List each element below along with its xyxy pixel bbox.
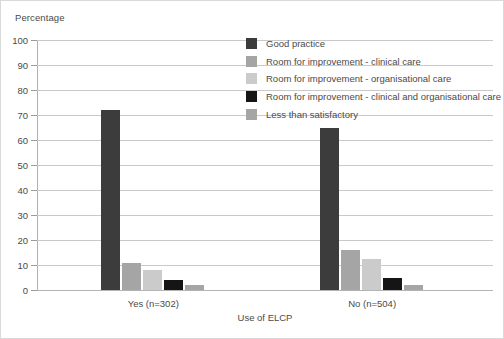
bar-slot bbox=[143, 40, 162, 290]
chart-legend: Good practiceRoom for improvement - clin… bbox=[246, 35, 501, 123]
tick-mark bbox=[31, 140, 37, 141]
tick-mark bbox=[31, 115, 37, 116]
bar[interactable] bbox=[383, 278, 402, 291]
bar-slot bbox=[164, 40, 183, 290]
bar[interactable] bbox=[404, 285, 423, 290]
legend-item[interactable]: Room for improvement - organisational ca… bbox=[246, 70, 501, 88]
legend-swatch bbox=[246, 109, 257, 120]
bar[interactable] bbox=[341, 250, 360, 290]
y-axis-tick-label: 80 bbox=[17, 85, 28, 96]
legend-swatch bbox=[246, 38, 257, 49]
legend-item[interactable]: Less than satisfactory bbox=[246, 105, 501, 123]
y-axis-tick-label: 50 bbox=[17, 160, 28, 171]
y-axis-tick-label: 10 bbox=[17, 260, 28, 271]
bar-group: Yes (n=302) bbox=[101, 40, 205, 290]
bar-slot bbox=[101, 40, 120, 290]
legend-item[interactable]: Room for improvement - clinical and orga… bbox=[246, 88, 501, 106]
legend-item[interactable]: Room for improvement - clinical care bbox=[246, 53, 501, 71]
bar[interactable] bbox=[320, 128, 339, 291]
legend-swatch bbox=[246, 91, 257, 102]
tick-mark bbox=[31, 215, 37, 216]
x-axis-group-label: No (n=504) bbox=[320, 298, 424, 309]
y-axis-tick-label: 40 bbox=[17, 185, 28, 196]
tick-mark bbox=[31, 240, 37, 241]
tick-mark bbox=[31, 265, 37, 266]
bar-slot bbox=[122, 40, 141, 290]
y-axis-tick-label: 100 bbox=[12, 35, 28, 46]
y-axis-tick-label: 0 bbox=[23, 285, 28, 296]
y-axis-tick-label: 70 bbox=[17, 110, 28, 121]
chart-figure: Percentage Yes (n=302)No (n=504) 1009080… bbox=[0, 0, 504, 339]
tick-mark bbox=[31, 90, 37, 91]
legend-item[interactable]: Good practice bbox=[246, 35, 501, 53]
bar[interactable] bbox=[122, 263, 141, 291]
bar[interactable] bbox=[362, 259, 381, 290]
bar[interactable] bbox=[101, 110, 120, 290]
tick-mark bbox=[31, 65, 37, 66]
legend-label: Room for improvement - clinical and orga… bbox=[266, 91, 501, 102]
y-axis-tick-label: 30 bbox=[17, 210, 28, 221]
tick-mark bbox=[31, 165, 37, 166]
y-axis-tick-label: 60 bbox=[17, 135, 28, 146]
x-axis-group-label: Yes (n=302) bbox=[101, 298, 205, 309]
legend-label: Good practice bbox=[266, 38, 325, 49]
tick-mark bbox=[31, 190, 37, 191]
legend-swatch bbox=[246, 73, 257, 84]
bar[interactable] bbox=[143, 270, 162, 290]
tick-mark bbox=[31, 290, 37, 291]
x-axis-title: Use of ELCP bbox=[37, 312, 493, 323]
bar[interactable] bbox=[164, 280, 183, 290]
legend-label: Less than satisfactory bbox=[266, 109, 358, 120]
y-axis-tick-label: 20 bbox=[17, 235, 28, 246]
y-axis-title: Percentage bbox=[15, 12, 65, 23]
legend-label: Room for improvement - clinical care bbox=[266, 56, 421, 67]
gridline bbox=[37, 290, 493, 291]
bar[interactable] bbox=[185, 285, 204, 290]
legend-swatch bbox=[246, 56, 257, 67]
legend-label: Room for improvement - organisational ca… bbox=[266, 73, 451, 84]
bar-slot bbox=[185, 40, 204, 290]
tick-mark bbox=[31, 40, 37, 41]
y-axis-tick-label: 90 bbox=[17, 60, 28, 71]
